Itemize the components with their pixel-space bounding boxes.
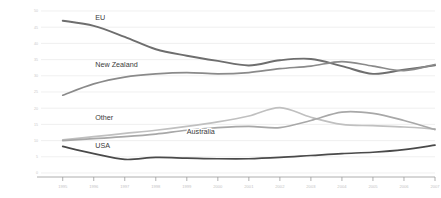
y-tick-label: 45 (34, 26, 38, 30)
y-tick-label: 10 (34, 139, 38, 143)
y-tick-label: 5 (36, 155, 38, 159)
y-tick-label: 50 (34, 9, 38, 13)
series-line-usa (63, 145, 435, 159)
series-label-usa: USA (95, 141, 110, 150)
y-tick-label: 40 (34, 42, 38, 46)
series-lines (63, 21, 435, 160)
y-tick-label: 30 (34, 74, 38, 78)
y-tick-label: 0 (36, 171, 38, 175)
series-label-new-zealand: New Zealand (95, 60, 137, 69)
x-tick-label: 2007 (430, 184, 440, 189)
y-tick-label: 25 (34, 90, 38, 94)
x-tick-label: 1996 (89, 184, 99, 189)
line-chart: 05101520253035404550 1995199619971998199… (0, 0, 441, 198)
series-line-other (63, 108, 435, 140)
series-label-eu: EU (95, 13, 105, 22)
x-tick-label: 1997 (120, 184, 130, 189)
x-tick-label: 1998 (151, 184, 161, 189)
x-tick-label: 2003 (306, 184, 316, 189)
x-tick-label: 2006 (399, 184, 409, 189)
x-tick-label: 2000 (213, 184, 223, 189)
y-tick-label: 20 (34, 107, 38, 111)
x-axis-labels: 1995199619971998199920002001200220032004… (58, 184, 440, 189)
y-axis-labels: 05101520253035404550 (34, 9, 38, 175)
x-tick-label: 2002 (275, 184, 285, 189)
y-tick-label: 15 (34, 123, 38, 127)
series-label-australia: Australia (187, 127, 215, 136)
series-label-other: Other (95, 113, 114, 122)
x-tick-label: 2001 (244, 184, 254, 189)
x-tick-label: 1995 (58, 184, 68, 189)
x-tick-label: 2005 (368, 184, 378, 189)
x-tick-label: 2004 (337, 184, 347, 189)
chart-canvas: 05101520253035404550 1995199619971998199… (0, 0, 441, 198)
series-labels: EUEUNew ZealandNew ZealandOtherOtherAust… (95, 13, 214, 150)
y-tick-label: 35 (34, 58, 38, 62)
x-tick-label: 1999 (182, 184, 192, 189)
x-axis (37, 177, 435, 181)
